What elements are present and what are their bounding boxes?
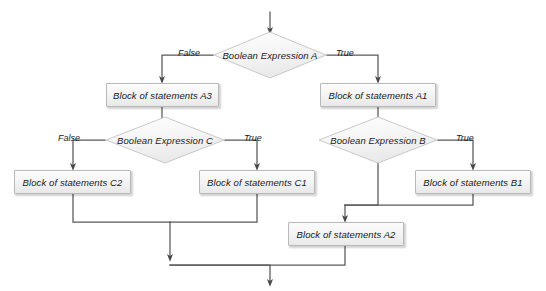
process-block-of-statements-c1[interactable]: Block of statements C1 xyxy=(199,170,315,194)
process-block-of-statements-a3[interactable]: Block of statements A3 xyxy=(106,83,219,107)
process-a1-label: Block of statements A1 xyxy=(328,90,427,101)
edge-A2-to-final-bus xyxy=(170,246,345,265)
edge-A-true-to-A1 xyxy=(327,55,378,80)
edge-B-true-to-B1 xyxy=(438,140,473,167)
process-a3-label: Block of statements A3 xyxy=(113,90,212,101)
edge-B1-to-merge xyxy=(345,194,473,205)
edge-final-exit xyxy=(170,265,270,283)
process-block-of-statements-a2[interactable]: Block of statements A2 xyxy=(288,222,404,246)
edge-label-c-false: False xyxy=(58,133,80,143)
process-c1-label: Block of statements C1 xyxy=(207,177,307,188)
process-c2-label: Block of statements C2 xyxy=(23,177,123,188)
flowchart-canvas: Boolean Expression A Boolean Expression … xyxy=(0,0,546,291)
edge-C2-to-merge xyxy=(73,194,170,222)
decision-boolean-expression-c[interactable]: Boolean Expression C xyxy=(105,116,225,164)
process-block-of-statements-a1[interactable]: Block of statements A1 xyxy=(320,83,436,107)
decision-c-label: Boolean Expression C xyxy=(117,135,213,146)
edge-C-false-to-C2 xyxy=(73,140,105,167)
process-b1-label: Block of statements B1 xyxy=(423,177,522,188)
process-a2-label: Block of statements A2 xyxy=(296,229,395,240)
edge-C1-to-merge xyxy=(170,194,257,222)
edge-label-a-false: False xyxy=(178,48,200,58)
decision-boolean-expression-a[interactable]: Boolean Expression A xyxy=(213,31,327,79)
decision-boolean-expression-b[interactable]: Boolean Expression B xyxy=(318,116,438,164)
decision-a-label: Boolean Expression A xyxy=(222,50,317,61)
decision-b-label: Boolean Expression B xyxy=(330,135,425,146)
process-block-of-statements-b1[interactable]: Block of statements B1 xyxy=(415,170,531,194)
edge-label-a-true: True xyxy=(336,48,354,58)
process-block-of-statements-c2[interactable]: Block of statements C2 xyxy=(14,170,131,194)
edge-label-b-true: True xyxy=(456,133,474,143)
edge-label-c-true: True xyxy=(244,133,262,143)
edge-A-false-to-A3 xyxy=(162,55,213,80)
edge-C-true-to-C1 xyxy=(225,140,257,167)
